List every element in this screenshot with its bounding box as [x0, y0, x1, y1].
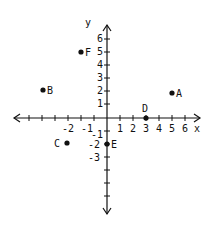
x-tick-label: 5 — [169, 123, 175, 134]
point-e: E — [104, 139, 117, 150]
x-axis-label: x — [194, 123, 200, 134]
y-tick-label: -3 — [88, 152, 100, 163]
point-label: B — [47, 85, 53, 96]
y-tick-label: 3 — [97, 72, 103, 83]
y-tick-label: 4 — [97, 59, 103, 70]
point-a: A — [169, 88, 182, 99]
point-label: D — [142, 103, 148, 114]
y-axis — [103, 25, 111, 214]
point-f: F — [78, 47, 91, 58]
x-tick-label: 6 — [182, 123, 188, 134]
x-tick-label: 3 — [143, 123, 149, 134]
y-tick-label: 2 — [97, 85, 103, 96]
y-tick-label: 1 — [97, 98, 103, 109]
x-tick-label: 1 — [117, 123, 123, 134]
x-tick-label: 4 — [156, 123, 162, 134]
y-tick-label: 6 — [97, 33, 103, 44]
y-tick-label: 5 — [97, 46, 103, 57]
point-label: E — [111, 139, 117, 150]
coordinate-plane: y x -2 -1 1 2 3 4 5 6 6 5 4 3 2 1 -1 -2 … — [0, 0, 213, 225]
x-tick-label: 2 — [130, 123, 136, 134]
point-label: A — [176, 88, 182, 99]
x-tick-label: -2 — [62, 123, 74, 134]
y-axis-label: y — [85, 17, 91, 28]
point-b: B — [40, 85, 53, 96]
point-c: C — [54, 138, 70, 149]
y-tick-label: -2 — [88, 139, 100, 150]
point-label: C — [54, 138, 60, 149]
point-label: F — [85, 47, 91, 58]
